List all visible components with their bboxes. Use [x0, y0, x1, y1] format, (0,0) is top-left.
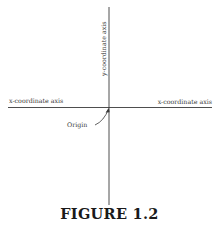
y-axis-label: y-coordinate axis	[100, 22, 108, 77]
figure-caption: FIGURE 1.2	[0, 205, 219, 222]
x-axis-left-label: x-coordinate axis	[9, 97, 63, 104]
origin-label: Origin	[67, 121, 87, 129]
x-axis-right-label: x-coordinate axis	[158, 98, 212, 105]
coordinate-axes-diagram: y-coordinate axis x-coordinate axis x-co…	[0, 0, 219, 227]
